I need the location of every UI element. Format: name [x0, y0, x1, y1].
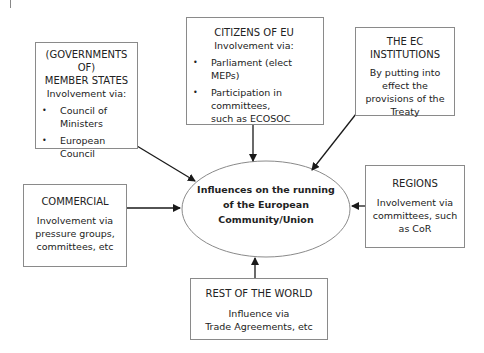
ec-institutions-title-1: THE EC	[359, 35, 451, 48]
arrow-member-states	[137, 146, 195, 181]
rest-of-world-body-1: Influence via	[195, 307, 323, 320]
bullet-item: Council of Ministers	[38, 104, 135, 130]
commercial-title: COMMERCIAL	[28, 195, 122, 208]
rest-of-world-box: REST OF THE WORLD Influence via Trade Ag…	[190, 278, 328, 340]
center-line-3: Community/Union	[182, 212, 350, 227]
citizens-subtitle: Involvement via:	[189, 39, 319, 52]
member-states-bullets: Council of Ministers European Council	[38, 104, 135, 160]
citizens-title: CITIZENS OF EU	[189, 26, 319, 39]
center-line-1: Influences on the running	[182, 182, 350, 197]
regions-box: REGIONS Involvement via committees, such…	[365, 165, 465, 248]
citizens-bullets: Parliament (elect MEPs) Participation in…	[189, 56, 319, 125]
member-states-subtitle: Involvement via:	[38, 87, 135, 100]
member-states-title-1: (GOVERNMENTS OF)	[38, 48, 135, 74]
regions-body: Involvement via committees, such as CoR	[372, 196, 458, 235]
bullet-item: European Council	[38, 134, 135, 160]
citizens-box: CITIZENS OF EU Involvement via: Parliame…	[186, 17, 324, 125]
regions-title: REGIONS	[372, 177, 458, 190]
commercial-body: Involvement via pressure groups, committ…	[28, 214, 122, 253]
ec-institutions-title-2: INSTITUTIONS	[359, 48, 451, 61]
center-node-label: Influences on the running of the Europea…	[182, 182, 350, 227]
center-line-2: of the European	[182, 197, 350, 212]
bullet-item: Participation in committees, such as ECO…	[189, 86, 319, 125]
rest-of-world-body-2: Trade Agreements, etc	[195, 320, 323, 333]
member-states-title-2: MEMBER STATES	[38, 74, 135, 87]
ec-institutions-body: By putting into effect the provisions of…	[359, 66, 451, 118]
bullet-item: Parliament (elect MEPs)	[189, 56, 319, 82]
ec-institutions-box: THE EC INSTITUTIONS By putting into effe…	[355, 27, 455, 116]
member-states-box: (GOVERNMENTS OF) MEMBER STATES Involveme…	[35, 42, 138, 149]
rest-of-world-title: REST OF THE WORLD	[195, 287, 323, 300]
commercial-box: COMMERCIAL Involvement via pressure grou…	[23, 184, 127, 267]
